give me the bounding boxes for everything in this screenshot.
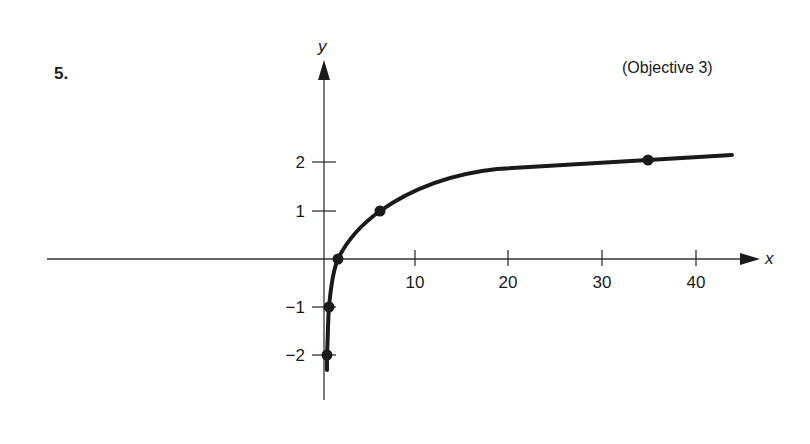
y-tick-label: 2 [296,153,305,172]
chart: x 10 20 30 40 y 2 1 −1 −2 [0,0,810,444]
data-point [333,254,344,265]
x-axis-label: x [764,249,774,268]
log-curve [327,155,732,370]
y-axis-arrow-icon [318,60,330,80]
y-axis-label: y [317,37,328,56]
x-tick-label: 20 [499,273,518,292]
data-point [375,206,386,217]
x-tick-label: 40 [687,273,706,292]
x-tick-label: 30 [593,273,612,292]
y-tick-label: 1 [296,202,305,221]
x-axis-arrow-icon [740,253,760,265]
data-point [643,155,654,166]
x-tick-label: 10 [406,273,425,292]
y-tick-label: −2 [286,346,305,365]
data-point [322,350,333,361]
data-points [322,155,654,361]
data-point [324,302,335,313]
y-tick-label: −1 [286,298,305,317]
x-axis: x 10 20 30 40 [47,249,774,292]
